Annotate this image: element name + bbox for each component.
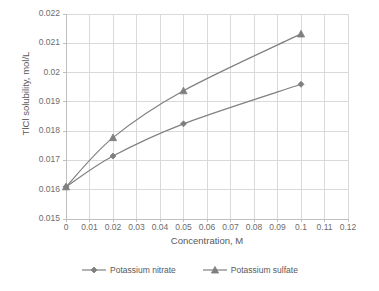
plot-area	[66, 14, 348, 219]
legend-diamond-marker-icon	[81, 265, 107, 275]
series-line	[66, 84, 301, 186]
series-2	[62, 30, 304, 190]
x-axis-title: Concentration, M	[66, 235, 348, 246]
x-axis-tick-labels: 00.010.020.030.040.050.060.070.080.090.1…	[0, 222, 379, 236]
legend-item-2[interactable]: Potassium sulfate	[202, 265, 298, 275]
legend-label: Potassium sulfate	[231, 265, 298, 275]
legend-triangle-marker-icon	[202, 265, 228, 275]
x-tick-label: 0.12	[340, 222, 357, 232]
data-series-layer	[66, 14, 348, 219]
x-tick-label: 0.1	[295, 222, 307, 232]
x-tick-label: 0.02	[105, 222, 122, 232]
y-tick-label: 0.02	[43, 68, 60, 77]
x-tick-label: 0.08	[246, 222, 263, 232]
x-tick-label: 0.01	[81, 222, 98, 232]
data-point-marker	[110, 153, 116, 159]
data-point-marker	[180, 87, 187, 94]
x-tick-label: 0.11	[317, 222, 333, 232]
y-tick-label: 0.017	[39, 155, 60, 164]
series-line	[66, 34, 301, 187]
data-point-marker	[297, 30, 304, 37]
y-tick-label: 0.016	[39, 185, 60, 194]
x-tick-label: 0.03	[128, 222, 145, 232]
x-tick-label: 0.07	[222, 222, 239, 232]
x-tick-label: 0.06	[199, 222, 216, 232]
x-tick-label: 0	[64, 222, 69, 232]
x-tick-label: 0.05	[175, 222, 192, 232]
y-tick-label: 0.019	[39, 97, 60, 106]
y-tick-label: 0.022	[39, 9, 60, 18]
x-tick-label: 0.09	[269, 222, 286, 232]
y-axis-title: TlCl solubility, mol/L	[20, 6, 31, 181]
data-point-marker	[298, 81, 304, 87]
line-chart: 0.0150.0160.0170.0180.0190.020.0210.022 …	[0, 0, 379, 291]
legend-label: Potassium nitrate	[110, 265, 176, 275]
chart-legend: Potassium nitratePotassium sulfate	[0, 265, 379, 275]
data-point-marker	[181, 121, 187, 127]
series-1	[63, 81, 304, 190]
x-tick-label: 0.04	[152, 222, 169, 232]
y-tick-label: 0.021	[39, 38, 60, 47]
legend-item-1[interactable]: Potassium nitrate	[81, 265, 176, 275]
y-tick-label: 0.018	[39, 126, 60, 135]
